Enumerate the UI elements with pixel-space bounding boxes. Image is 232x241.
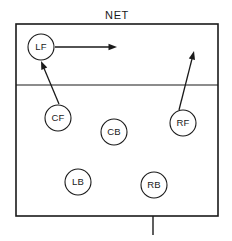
player-center-front[interactable]: CF xyxy=(45,105,71,131)
court-diagram-canvas: NET LFCFRFCBLBRB xyxy=(0,0,232,241)
player-left-front-label: LF xyxy=(35,41,47,52)
movement-arrows-group xyxy=(41,44,195,110)
player-left-front[interactable]: LF xyxy=(28,34,54,60)
arrow-cf-to-lf-head xyxy=(41,61,47,70)
net-label: NET xyxy=(105,9,129,21)
player-right-front-label: RF xyxy=(176,117,189,128)
player-left-back[interactable]: LB xyxy=(65,169,91,195)
arrow-rf-to-net-shaft xyxy=(179,57,192,110)
player-center-front-label: CF xyxy=(51,112,64,123)
player-right-back[interactable]: RB xyxy=(141,172,167,198)
arrow-rf-to-net xyxy=(179,51,195,110)
volleyball-diagram: NET LFCFRFCBLBRB xyxy=(0,0,232,241)
player-left-back-label: LB xyxy=(72,176,84,187)
arrow-lf-to-right xyxy=(55,44,117,50)
arrow-lf-to-right-head xyxy=(109,44,118,50)
arrow-rf-to-net-head xyxy=(189,51,195,60)
player-right-back-label: RB xyxy=(147,179,161,190)
arrow-cf-to-lf xyxy=(41,61,59,104)
player-positions-group: LFCFRFCBLBRB xyxy=(28,34,196,198)
player-right-front[interactable]: RF xyxy=(170,110,196,136)
player-center-back[interactable]: CB xyxy=(101,119,127,145)
player-center-back-label: CB xyxy=(107,126,121,137)
